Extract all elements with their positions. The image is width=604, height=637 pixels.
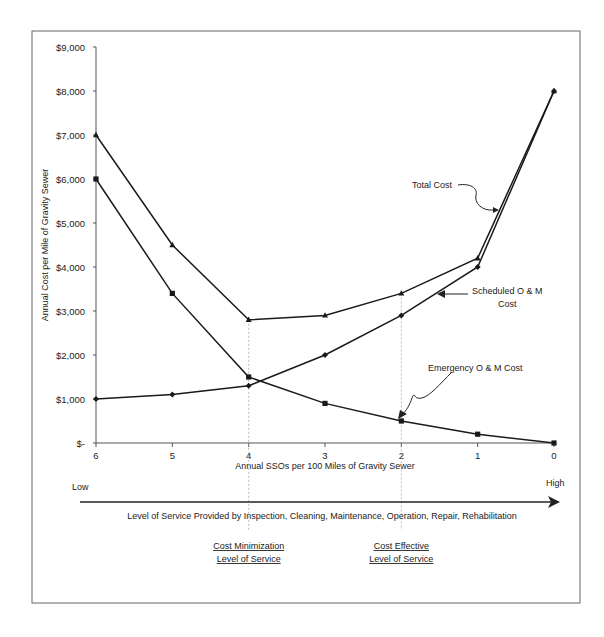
series-emergency-o-m-cost — [93, 176, 556, 445]
square-marker-icon — [322, 401, 327, 406]
square-marker-icon — [246, 374, 251, 379]
x-tick-label: 1 — [475, 450, 480, 461]
series-scheduled-o-m-cost — [93, 88, 557, 402]
y-axis-label: Annual Cost per Mile of Gravity Sewer — [40, 169, 50, 322]
service-level-guides — [249, 293, 402, 530]
service-level-label-line2: Level of Service — [217, 554, 281, 564]
x-tick-label: 6 — [93, 450, 98, 461]
series-group — [93, 88, 557, 446]
y-tick-label: $1,000 — [56, 394, 85, 405]
service-level-label-line2: Level of Service — [369, 554, 433, 564]
annotation-arrows — [402, 185, 493, 414]
triangle-marker-icon — [475, 255, 481, 260]
x-tick-label: 3 — [322, 450, 327, 461]
x-axis-label: Annual SSOs per 100 Miles of Gravity Sew… — [235, 461, 415, 471]
diamond-marker-icon — [93, 396, 99, 402]
y-ticks: $-$1,000$2,000$3,000$4,000$5,000$6,000$7… — [56, 42, 96, 449]
square-marker-icon — [399, 418, 404, 423]
total-cost-annotation: Total Cost — [412, 180, 453, 190]
service-level-label-line1: Cost Effective — [374, 541, 429, 551]
x-ticks: 6543210 — [93, 443, 556, 461]
y-tick-label: $9,000 — [56, 42, 85, 53]
x-tick-label: 5 — [170, 450, 175, 461]
y-tick-label: $2,000 — [56, 350, 85, 361]
square-marker-icon — [551, 440, 556, 445]
square-marker-icon — [93, 176, 98, 181]
diamond-marker-icon — [246, 383, 252, 389]
y-tick-label: $6,000 — [56, 174, 85, 185]
y-tick-label: $7,000 — [56, 130, 85, 141]
y-tick-label: $- — [77, 438, 85, 449]
x-tick-label: 0 — [551, 450, 556, 461]
emergency-cost-annotation: Emergency O & M Cost — [428, 363, 523, 373]
service-level-caption: Level of Service Provided by Inspection,… — [127, 511, 517, 521]
service-high-label: High — [546, 478, 565, 488]
y-tick-label: $8,000 — [56, 86, 85, 97]
scheduled-cost-annotation-line2: Cost — [498, 299, 517, 309]
service-level-labels: Cost MinimizationLevel of ServiceCost Ef… — [213, 541, 433, 564]
diamond-marker-icon — [322, 352, 328, 358]
y-tick-label: $5,000 — [56, 218, 85, 229]
scheduled-cost-annotation-line1: Scheduled O & M — [472, 286, 543, 296]
y-tick-label: $3,000 — [56, 306, 85, 317]
square-marker-icon — [170, 291, 175, 296]
x-tick-label: 4 — [246, 450, 251, 461]
total-cost-arrow-icon — [458, 185, 493, 211]
y-tick-label: $4,000 — [56, 262, 85, 273]
diamond-marker-icon — [169, 392, 175, 398]
square-marker-icon — [475, 432, 480, 437]
service-low-label: Low — [72, 482, 89, 492]
service-level-label-line1: Cost Minimization — [213, 541, 284, 551]
chart-canvas: $-$1,000$2,000$3,000$4,000$5,000$6,000$7… — [0, 0, 604, 637]
emergency-cost-arrow-icon — [402, 372, 452, 414]
